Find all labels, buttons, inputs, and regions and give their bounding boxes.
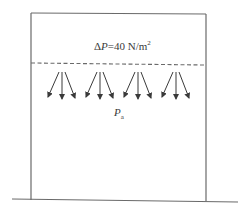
arrow-group-4: [162, 72, 189, 99]
arrow-icon: [48, 72, 59, 97]
arrow-icon: [65, 72, 75, 98]
ambient-pressure-label: Pa: [114, 106, 124, 118]
arrow-icon: [162, 72, 173, 97]
ground-line: [12, 199, 238, 202]
pressure-diagram: [0, 0, 250, 215]
arrow-icon: [179, 72, 189, 98]
pressure-value: =40 N/m: [108, 40, 148, 52]
ambient-variable: P: [114, 106, 121, 118]
arrow-icon: [86, 72, 97, 97]
pressure-variable: P: [101, 40, 108, 52]
arrow-group-2: [86, 72, 113, 99]
unit-exponent: 2: [147, 39, 151, 47]
arrow-group-3: [124, 72, 151, 99]
arrow-icon: [124, 72, 135, 97]
arrow-group-1: [48, 72, 75, 99]
container-top-wall: [31, 13, 206, 14]
pressure-difference-label: ΔP=40 N/m2: [94, 40, 151, 52]
arrow-icon: [103, 72, 113, 98]
dashed-boundary-line: [31, 63, 206, 65]
ambient-subscript: a: [121, 113, 124, 121]
arrow-icon: [141, 72, 151, 98]
